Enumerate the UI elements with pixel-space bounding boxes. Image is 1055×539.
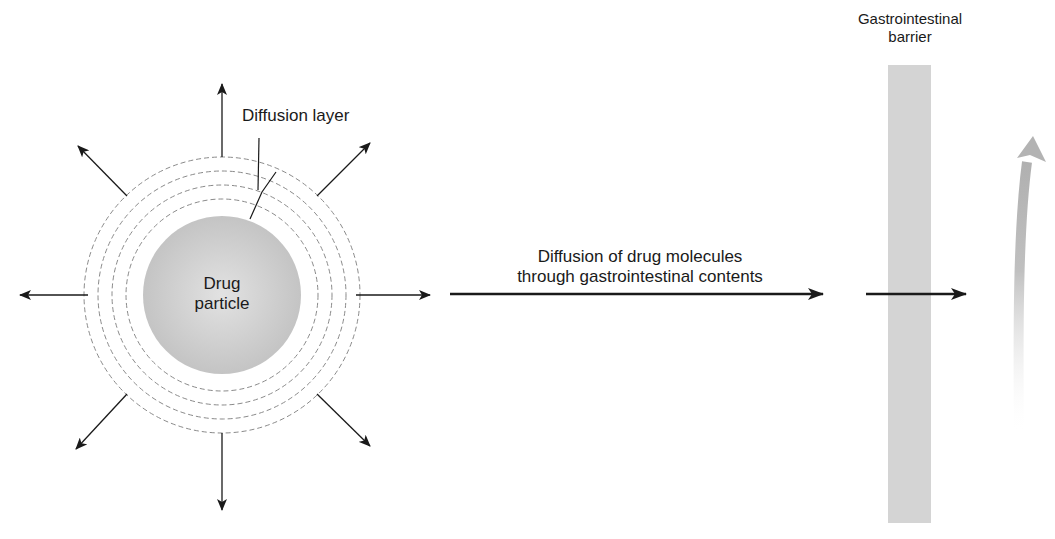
arrow-down-right-icon xyxy=(317,394,370,446)
barrier-label-line2: barrier xyxy=(840,28,980,46)
drug-particle-label-line2: particle xyxy=(172,294,272,314)
arrow-up-right-icon xyxy=(317,143,370,196)
drug-particle-label-line1: Drug xyxy=(172,274,272,294)
diffusion-arrow-label-line2: through gastrointestinal contents xyxy=(460,267,820,287)
barrier-label-line1: Gastrointestinal xyxy=(840,10,980,28)
curved-uptake-arrow-icon xyxy=(1017,136,1046,435)
diffusion-layer-label: Diffusion layer xyxy=(242,106,349,126)
arrow-down-left-icon xyxy=(76,394,127,449)
arrow-up-left-icon xyxy=(78,146,127,196)
diffusion-arrow-label-line1: Diffusion of drug molecules xyxy=(460,247,820,267)
